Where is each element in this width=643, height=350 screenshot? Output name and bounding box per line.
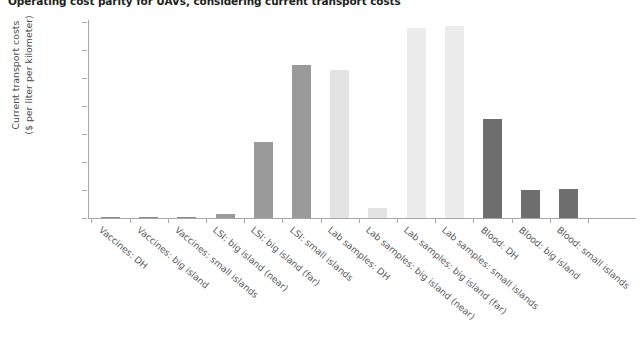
x-tick-mark (588, 219, 589, 223)
chart-title: Operating cost parity for UAVs, consider… (8, 0, 628, 7)
y-tick-mark (82, 218, 87, 219)
bar (216, 214, 235, 218)
bar (177, 217, 196, 218)
plot-area (88, 22, 636, 218)
x-tick-mark (282, 219, 283, 223)
bar (559, 189, 578, 218)
y-tick-mark (82, 50, 87, 51)
y-axis-title-line-1: Current transport costs (10, 0, 23, 160)
bar (521, 190, 540, 218)
bar (483, 119, 502, 218)
x-axis-label: Blood: small islands (555, 224, 632, 291)
x-tick-mark (397, 219, 398, 223)
x-tick-mark (168, 219, 169, 223)
bar (101, 217, 120, 218)
x-tick-mark (512, 219, 513, 223)
y-tick-mark (82, 106, 87, 107)
y-tick-mark (82, 190, 87, 191)
x-tick-mark (359, 219, 360, 223)
bar (292, 65, 311, 218)
x-tick-mark (550, 219, 551, 223)
y-tick-mark (82, 22, 87, 23)
y-axis-title-line-2: ($ per liter per kilometer) (23, 0, 36, 160)
x-tick-mark (91, 219, 92, 223)
x-axis-line (88, 218, 636, 219)
bar (368, 208, 387, 218)
bar (445, 26, 464, 218)
x-tick-mark (244, 219, 245, 223)
y-axis-title: Current transport costs ($ per liter per… (10, 0, 44, 160)
bar (254, 142, 273, 218)
chart-figure: Operating cost parity for UAVs, consider… (0, 0, 643, 350)
x-axis-label: LSI: big island (far) (249, 224, 323, 288)
bar (330, 70, 349, 218)
y-tick-mark (82, 162, 87, 163)
x-tick-mark (435, 219, 436, 223)
x-axis-label: LSI: small islands (287, 224, 355, 283)
bar (407, 28, 426, 218)
x-tick-mark (473, 219, 474, 223)
x-tick-mark (206, 219, 207, 223)
y-tick-mark (82, 134, 87, 135)
bar (139, 217, 158, 218)
x-tick-mark (321, 219, 322, 223)
x-tick-mark (130, 219, 131, 223)
x-axis-label: Vaccines: big island (135, 224, 211, 291)
y-tick-mark (82, 78, 87, 79)
